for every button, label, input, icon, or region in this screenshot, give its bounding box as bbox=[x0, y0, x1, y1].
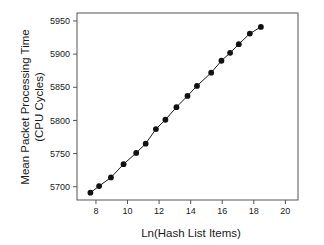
y-tick-label: 5800 bbox=[50, 116, 70, 126]
x-tick-label: 10 bbox=[123, 206, 133, 216]
line-chart: 8101214161820 570057505800585059005950 L… bbox=[0, 0, 324, 245]
data-point-marker bbox=[133, 150, 139, 156]
y-axis-title-line1: Mean Packet Processing Time bbox=[19, 29, 31, 184]
data-point-marker bbox=[108, 175, 114, 181]
y-tick-label: 5850 bbox=[50, 82, 70, 92]
data-point-marker bbox=[163, 117, 169, 123]
data-point-marker bbox=[185, 93, 191, 99]
x-tick-label: 8 bbox=[93, 206, 98, 216]
data-point-marker bbox=[258, 24, 264, 30]
x-axis-title: Ln(Hash List Items) bbox=[141, 227, 241, 239]
data-point-marker bbox=[219, 58, 225, 64]
y-axis-title-line2: (CPU Cycles) bbox=[33, 72, 45, 142]
data-point-marker bbox=[194, 83, 200, 89]
data-point-marker bbox=[88, 190, 94, 196]
x-tick-label: 16 bbox=[217, 206, 227, 216]
y-tick-label: 5700 bbox=[50, 182, 70, 192]
x-tick-label: 12 bbox=[154, 206, 164, 216]
data-point-marker bbox=[174, 104, 180, 110]
data-point-marker bbox=[153, 126, 159, 132]
data-point-marker bbox=[96, 183, 102, 189]
data-point-marker bbox=[143, 141, 149, 147]
y-tick-label: 5750 bbox=[50, 149, 70, 159]
chart-figure: 8101214161820 570057505800585059005950 L… bbox=[0, 0, 324, 245]
data-point-marker bbox=[236, 41, 242, 47]
y-tick-label: 5950 bbox=[50, 16, 70, 26]
x-tick-label: 14 bbox=[186, 206, 196, 216]
data-point-marker bbox=[208, 70, 214, 76]
data-point-marker bbox=[247, 31, 253, 37]
data-point-marker bbox=[227, 50, 233, 56]
y-tick-label: 5900 bbox=[50, 49, 70, 59]
x-tick-label: 18 bbox=[249, 206, 259, 216]
x-tick-label: 20 bbox=[280, 206, 290, 216]
data-point-marker bbox=[121, 161, 127, 167]
